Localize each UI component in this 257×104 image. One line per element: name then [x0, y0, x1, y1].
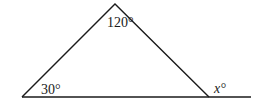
exterior-angle-label: x°	[213, 81, 226, 96]
left-angle-label: 30°	[41, 82, 61, 97]
apex-angle-label: 120°	[107, 15, 134, 30]
triangle-diagram: 120° 30° x°	[0, 0, 257, 104]
